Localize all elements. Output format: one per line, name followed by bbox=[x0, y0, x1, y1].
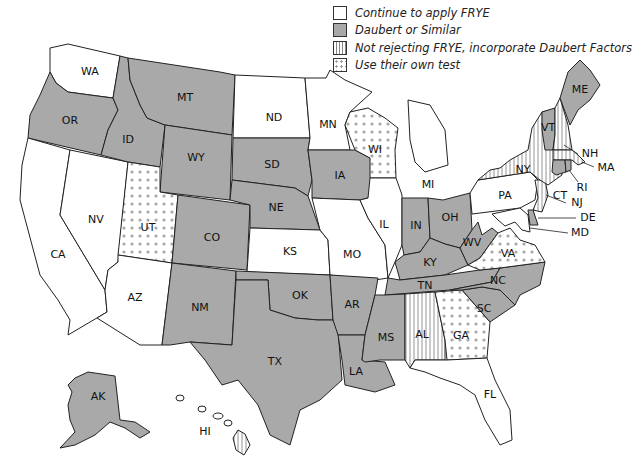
svg-text:CO: CO bbox=[204, 231, 221, 244]
svg-text:WY: WY bbox=[187, 151, 205, 164]
svg-text:NY: NY bbox=[516, 163, 531, 176]
svg-text:NJ: NJ bbox=[571, 196, 582, 209]
state-ks[interactable]: KS bbox=[247, 228, 330, 275]
svg-text:VT: VT bbox=[541, 121, 556, 134]
svg-text:NC: NC bbox=[490, 274, 506, 287]
svg-text:TX: TX bbox=[267, 355, 283, 368]
svg-text:NM: NM bbox=[191, 301, 209, 314]
swatch-gray-icon bbox=[333, 23, 347, 37]
svg-text:CA: CA bbox=[50, 248, 66, 261]
swatch-white-icon bbox=[333, 6, 347, 20]
svg-text:WI: WI bbox=[368, 143, 382, 156]
svg-text:MN: MN bbox=[319, 118, 337, 131]
svg-text:LA: LA bbox=[349, 365, 363, 378]
svg-text:MT: MT bbox=[177, 91, 193, 104]
svg-text:NH: NH bbox=[582, 147, 599, 160]
state-nm[interactable]: NM bbox=[162, 263, 236, 345]
state-ia[interactable]: IA bbox=[308, 150, 378, 200]
state-ak[interactable]: AK bbox=[60, 372, 150, 448]
svg-text:KY: KY bbox=[423, 256, 437, 269]
legend-label: Daubert or Similar bbox=[355, 23, 461, 37]
svg-text:OK: OK bbox=[292, 289, 309, 302]
svg-text:CT: CT bbox=[553, 189, 568, 202]
legend: Continue to apply FRYE Daubert or Simila… bbox=[333, 4, 632, 74]
svg-text:ND: ND bbox=[266, 111, 283, 124]
svg-text:MA: MA bbox=[597, 161, 614, 174]
svg-text:MI: MI bbox=[422, 178, 435, 191]
svg-text:HI: HI bbox=[199, 425, 211, 438]
legend-item-hybrid: Not rejecting FRYE, incorporate Daubert … bbox=[333, 39, 632, 57]
svg-text:MS: MS bbox=[378, 331, 394, 344]
svg-text:MD: MD bbox=[571, 226, 589, 239]
svg-text:AR: AR bbox=[344, 298, 360, 311]
ri-leader-line bbox=[569, 170, 578, 182]
state-hi[interactable]: HI bbox=[176, 395, 250, 455]
svg-text:TN: TN bbox=[417, 279, 433, 292]
svg-text:ME: ME bbox=[572, 83, 588, 96]
svg-text:IA: IA bbox=[335, 169, 346, 182]
svg-text:RI: RI bbox=[577, 181, 588, 194]
state-co[interactable]: CO bbox=[172, 195, 250, 270]
svg-text:OH: OH bbox=[442, 211, 459, 224]
svg-text:GA: GA bbox=[453, 329, 470, 342]
state-mi[interactable]: MI bbox=[408, 100, 448, 191]
md-leader-line bbox=[530, 228, 568, 233]
svg-text:VA: VA bbox=[501, 247, 516, 260]
svg-text:AL: AL bbox=[415, 328, 430, 341]
swatch-stripe-icon bbox=[333, 41, 347, 55]
svg-text:PA: PA bbox=[498, 189, 512, 202]
svg-text:OR: OR bbox=[62, 114, 79, 127]
svg-text:MO: MO bbox=[343, 248, 361, 261]
legend-label: Continue to apply FRYE bbox=[355, 6, 490, 20]
svg-text:NV: NV bbox=[88, 213, 104, 226]
svg-text:UT: UT bbox=[141, 221, 156, 234]
state-nd[interactable]: ND bbox=[233, 75, 310, 138]
svg-text:AK: AK bbox=[91, 390, 107, 403]
svg-text:FL: FL bbox=[484, 388, 497, 401]
svg-text:DE: DE bbox=[580, 211, 595, 224]
svg-text:ID: ID bbox=[122, 133, 134, 146]
svg-text:IL: IL bbox=[379, 218, 389, 231]
svg-text:SC: SC bbox=[477, 302, 492, 315]
svg-text:AZ: AZ bbox=[127, 291, 143, 304]
state-ri[interactable]: RI bbox=[565, 160, 587, 194]
svg-text:WV: WV bbox=[463, 236, 482, 249]
ma-leader-line bbox=[582, 162, 594, 167]
state-de[interactable]: DE bbox=[528, 210, 596, 225]
svg-text:NE: NE bbox=[268, 201, 283, 214]
svg-text:KS: KS bbox=[283, 245, 297, 258]
svg-text:WA: WA bbox=[81, 65, 99, 78]
legend-label: Use their own test bbox=[355, 58, 460, 72]
legend-label: Not rejecting FRYE, incorporate Daubert … bbox=[355, 41, 632, 55]
state-wy[interactable]: WY bbox=[160, 125, 232, 200]
svg-text:IN: IN bbox=[410, 219, 421, 232]
legend-item-daubert: Daubert or Similar bbox=[333, 22, 632, 40]
state-fl[interactable]: FL bbox=[410, 358, 512, 445]
swatch-dot-icon bbox=[333, 58, 347, 72]
legend-item-frye: Continue to apply FRYE bbox=[333, 4, 632, 22]
svg-text:SD: SD bbox=[264, 158, 279, 171]
legend-item-own: Use their own test bbox=[333, 57, 632, 75]
